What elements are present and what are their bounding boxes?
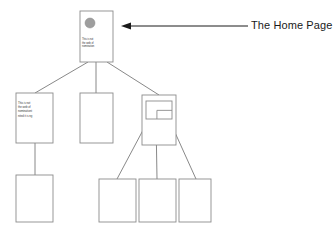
leaf-page-node-2[interactable] (139, 179, 176, 222)
home-page-node-outline (80, 11, 113, 62)
leaf-page-node-3-outline (179, 179, 211, 222)
connector-root-to-left (35, 62, 88, 93)
home-page-annotation-label: The Home Page (251, 19, 332, 32)
leaf-page-node-left[interactable] (16, 175, 53, 222)
node-layer (16, 11, 211, 222)
sub-page-node-left-outline (16, 93, 53, 143)
leftward-arrow-head (121, 22, 131, 29)
sub-page-node-right[interactable] (142, 95, 176, 145)
leaf-page-node-left-outline (16, 175, 53, 222)
site-map-diagram (0, 0, 333, 244)
leaf-page-node-1-outline (99, 179, 136, 222)
sub-page-node-center[interactable] (80, 93, 113, 143)
connector-root-to-right (107, 62, 159, 95)
annotation-arrow-layer (121, 22, 248, 29)
leaf-page-node-1[interactable] (99, 179, 136, 222)
leaf-page-node-3[interactable] (179, 179, 211, 222)
sub-page-node-left[interactable] (16, 93, 53, 143)
leaf-page-node-2-outline (139, 179, 176, 222)
sub-page-node-center-outline (80, 93, 113, 143)
home-page-node[interactable] (80, 11, 113, 62)
diagram-canvas: The Home Page This is not the web of nom… (0, 0, 333, 244)
page-thumbnail-circle-icon (85, 18, 95, 28)
